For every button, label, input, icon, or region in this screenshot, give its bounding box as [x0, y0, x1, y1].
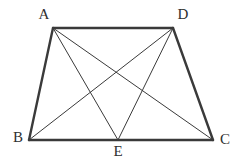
- vertex-label-E: E: [113, 143, 122, 159]
- vertex-label-D: D: [178, 6, 189, 22]
- geometry-canvas: ADBEC: [0, 0, 239, 160]
- vertex-label-A: A: [39, 6, 50, 22]
- geometry-figure: ADBEC: [0, 0, 239, 160]
- vertex-label-B: B: [13, 129, 23, 145]
- vertex-label-C: C: [220, 131, 230, 147]
